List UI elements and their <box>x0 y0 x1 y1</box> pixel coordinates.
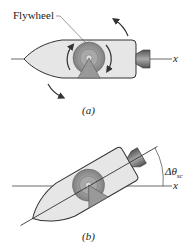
caption-b: (b) <box>82 230 95 242</box>
angle-arc <box>155 148 163 186</box>
flywheel-label: Flywheel <box>13 9 54 21</box>
figure-a <box>11 16 172 97</box>
x-axis-label-a: x <box>173 52 178 64</box>
body-rotation-arrow-icon <box>115 20 128 36</box>
angle-label-delta: Δθ <box>165 165 177 177</box>
body-rotation-arrow-icon <box>48 84 62 97</box>
caption-a: (a) <box>82 104 95 116</box>
angle-label: Δθsc <box>165 165 183 180</box>
spacecraft-diagram <box>0 0 191 247</box>
thruster-nozzle-icon <box>136 50 150 68</box>
flywheel-leader-line <box>56 16 86 43</box>
x-axis-label-b: x <box>173 179 178 191</box>
figure-b <box>11 130 172 242</box>
